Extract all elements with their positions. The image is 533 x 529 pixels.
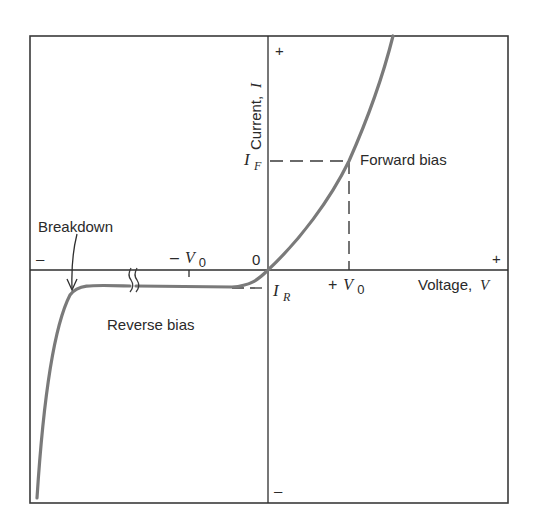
if-sub: F [253, 159, 262, 173]
y-minus-sign: – [274, 482, 283, 499]
axis-break-icon [129, 268, 139, 292]
origin-label: 0 [252, 251, 260, 268]
neg-v0-label: – V 0 [170, 249, 206, 270]
reverse-bias-label: Reverse bias [107, 316, 195, 333]
pos-v0-var: V [343, 276, 355, 293]
x-axis-label-text: Voltage, [418, 276, 472, 293]
ir-var: I [272, 281, 280, 300]
y-axis-label-text: Current, [247, 96, 264, 150]
if-var: I [243, 150, 251, 169]
ir-label: I R [272, 281, 291, 304]
pos-v0-label: + V 0 [328, 276, 364, 297]
pos-v0-sign: + [328, 276, 337, 293]
y-axis-label: Current, I [247, 82, 264, 150]
neg-v0-sub: 0 [199, 255, 206, 270]
diode-iv-diagram: Breakdown Forward bias Reverse bias 0 – … [0, 0, 533, 529]
neg-v0-sign: – [170, 249, 179, 266]
x-plus-sign: + [492, 250, 501, 267]
ir-sub: R [282, 290, 291, 304]
x-minus-sign: – [36, 250, 45, 267]
breakdown-label: Breakdown [38, 218, 113, 235]
forward-bias-label: Forward bias [360, 151, 447, 168]
x-axis-label-var: V [480, 277, 491, 293]
y-plus-sign: + [275, 42, 284, 59]
neg-v0-var: V [185, 249, 197, 266]
if-label: I F [243, 150, 262, 173]
y-axis-label-var: I [248, 82, 264, 89]
x-axis-label: Voltage, V [418, 276, 491, 293]
breakdown-arrow-icon [67, 234, 77, 290]
pos-v0-sub: 0 [357, 282, 364, 297]
